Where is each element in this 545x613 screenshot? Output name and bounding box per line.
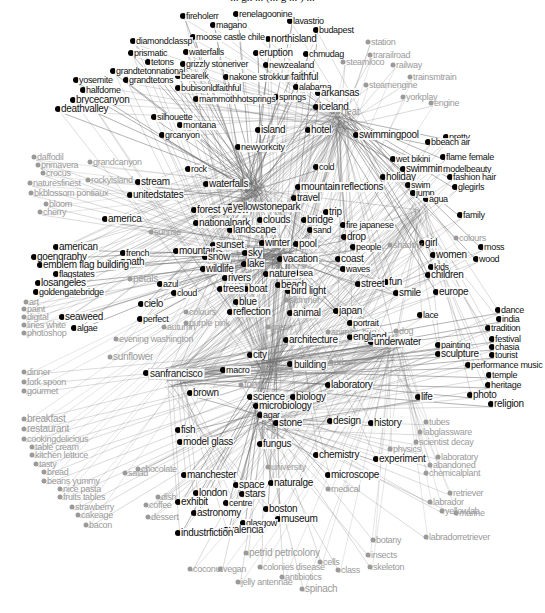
node-label: brown (192, 388, 220, 398)
node-label: waterfalls (208, 179, 249, 189)
node-label: springs (278, 93, 307, 102)
node-label: colours (265, 365, 294, 374)
node-label: children (430, 270, 465, 280)
node-label: trainsmtrain (412, 73, 457, 82)
node-label: coast (340, 254, 364, 264)
node-label: naturesfinest (32, 179, 82, 188)
node-label: fruits tables (62, 493, 106, 502)
node-label: trees (222, 284, 245, 294)
node-label: university (270, 463, 307, 472)
node-label: lake (246, 259, 265, 269)
node-label: life (420, 392, 434, 402)
node-label: unitedstates (132, 190, 184, 200)
node-label: underwater (373, 337, 422, 347)
node-label: rivers (227, 273, 252, 283)
node-label: grizzly stoneriver (185, 60, 249, 69)
node-label: boat (248, 284, 268, 294)
node-label: hotel (310, 125, 332, 135)
node-label: bearelk (180, 72, 209, 81)
node-label: nature (268, 269, 297, 279)
node-label: northisland (270, 34, 318, 44)
node-label: goldengatebridge (38, 288, 105, 297)
node-label: sunflower (112, 352, 154, 362)
node-label: green (270, 323, 294, 332)
node-label: waves (345, 265, 371, 274)
node-label: railway (395, 61, 423, 70)
node-label: montana (182, 121, 217, 130)
node-label: yellowlab (444, 507, 480, 516)
node-label: skeleton (372, 563, 405, 572)
node-label: grcanyon (164, 131, 201, 140)
node-label: spinach (304, 584, 338, 594)
node-label: engine (433, 99, 460, 108)
node-label: coffee (148, 501, 173, 510)
node-label: yellowstonepark (232, 202, 301, 212)
node-label: grandcanyon (92, 158, 143, 167)
node-label: girl (424, 238, 438, 248)
node-label: agua (428, 195, 449, 204)
node-label: industrfiction (180, 528, 234, 538)
node-label: family (462, 211, 486, 220)
node-label: sea (298, 269, 314, 278)
node-label: design (332, 416, 362, 426)
node-label: tradition (490, 324, 521, 333)
node-label: fashion hair (452, 173, 497, 182)
node-label: antibiotics (284, 573, 323, 582)
node-label: evening washington (118, 335, 194, 344)
node-label: vacation (282, 254, 319, 264)
node-label: shadow (392, 241, 423, 250)
node-label: fun (388, 277, 403, 287)
node-label: naturalge (273, 478, 314, 488)
node-label: history (373, 418, 402, 428)
node-label: lace (422, 311, 439, 320)
node-label: newzealand (268, 61, 315, 70)
node-label: insects (370, 551, 398, 560)
node-label: colours (188, 308, 217, 317)
node-label: cakeage (80, 511, 114, 520)
node-label: seaweed (64, 312, 104, 322)
node-label: chocolate (140, 465, 178, 474)
node-label: bbeach air (430, 138, 471, 147)
node-label: steamengine (368, 81, 418, 90)
node-label: astronomy (196, 508, 242, 518)
node-label: magano (215, 21, 248, 30)
node-label: microscope (330, 470, 380, 480)
node-label: algae (76, 324, 99, 333)
node-label: mammothhotsprings (198, 95, 276, 104)
node-label: bkblossom pontiaux (33, 189, 109, 198)
node-label: eruption (258, 48, 294, 58)
node-label: retriever (452, 489, 484, 498)
node-label: manchester (186, 470, 237, 480)
node-label: station (370, 38, 396, 47)
node-label: nakone strokkur (228, 73, 290, 82)
node-label: stone (278, 418, 303, 428)
node-label: class (340, 566, 361, 575)
node-label: chmudag (308, 50, 345, 59)
node-label: rockyisland (90, 176, 134, 185)
node-label: coconut (192, 565, 223, 574)
node-label: food (243, 380, 263, 390)
node-label: mountain (300, 182, 341, 192)
node-label: cloud (176, 289, 198, 298)
node-label: faithful (290, 72, 319, 82)
node-label: museum (280, 514, 319, 524)
node-label: exhibit (180, 497, 209, 507)
node-label: bubisonldfaithful (180, 84, 242, 93)
node-label: petrid petricolony (248, 548, 321, 558)
node-label: swimmingpool (358, 130, 420, 140)
node-label: dessert (150, 513, 179, 522)
node-label: pool (298, 239, 318, 249)
node-label: religion (493, 399, 525, 409)
node-label: crocus (45, 169, 72, 178)
node-label: animal (292, 308, 322, 318)
node-label: rock (190, 165, 208, 174)
node-label: cherry (42, 208, 67, 217)
node-label: dinner (26, 368, 51, 377)
node-label: chemicalplant (428, 469, 481, 478)
node-label: diamondclassp (135, 37, 193, 46)
node-label: renelagoonine (238, 10, 293, 19)
node-label: snow (207, 252, 231, 262)
node-label: temple (491, 371, 518, 380)
node-label: autumn (166, 323, 196, 332)
node-label: bridge (306, 215, 334, 225)
